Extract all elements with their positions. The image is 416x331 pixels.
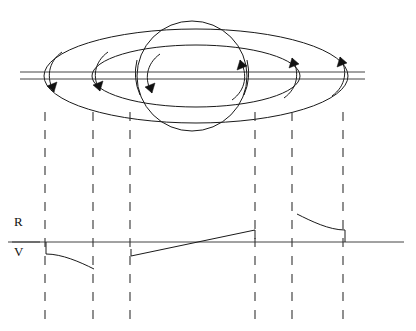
arrow-planet-left-icon: [145, 83, 155, 93]
rotation-arrows-receding: [232, 57, 347, 100]
figure-canvas: [0, 0, 416, 331]
planet-segment-ramp: [131, 230, 255, 256]
ring-segment-left: [46, 242, 94, 269]
arrow-inner-right-icon: [289, 58, 299, 68]
projection-lines: [45, 112, 343, 322]
inner-ring-ellipse: [92, 45, 300, 107]
outer-ring-ellipse: [44, 29, 348, 123]
arrow-outer-right-icon: [337, 57, 347, 67]
figure-root: R V: [0, 0, 416, 331]
ring-segment-right: [297, 214, 345, 242]
arrow-outer-left-icon: [47, 82, 57, 92]
planet-ring-system: [20, 21, 365, 131]
rotation-arrows-approaching: [47, 52, 160, 93]
spectral-line-profile: [8, 214, 404, 269]
